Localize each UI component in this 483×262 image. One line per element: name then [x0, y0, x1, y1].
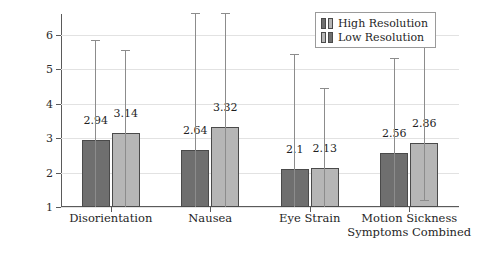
- gridline: [61, 207, 459, 208]
- error-bar: [195, 14, 196, 207]
- y-tick-label: 3: [46, 132, 53, 145]
- legend-item-low-resolution[interactable]: Low Resolution: [321, 30, 428, 44]
- y-tick-label: 6: [46, 28, 53, 41]
- error-bar: [324, 89, 325, 207]
- legend-swatch-low-resolution: [321, 32, 333, 43]
- y-tick: 1: [61, 207, 459, 208]
- error-bar: [394, 59, 395, 207]
- error-bar-cap-top: [320, 88, 329, 89]
- bar-chart: Mean of All Symptoms Combined 123456 2.9…: [0, 0, 483, 262]
- x-axis-group-label: Nausea: [188, 211, 232, 225]
- legend-swatch-high-resolution: [321, 18, 333, 29]
- bar-group: 2.943.14Disorientation: [61, 14, 161, 207]
- error-bar-cap-top: [290, 54, 299, 55]
- x-axis-group-label: Eye Strain: [279, 211, 340, 225]
- error-bar-cap-top: [121, 50, 130, 51]
- y-tick-mark: [56, 207, 61, 208]
- legend-item-high-resolution[interactable]: High Resolution: [321, 16, 428, 30]
- y-tick-label: 1: [46, 201, 53, 214]
- error-bar-cap-top: [390, 58, 399, 59]
- y-tick-label: 4: [46, 97, 53, 110]
- error-bar: [294, 55, 295, 207]
- y-tick-label: 5: [46, 63, 53, 76]
- legend-label-high-resolution: High Resolution: [338, 17, 428, 30]
- error-bar-cap-top: [191, 13, 200, 14]
- y-tick-label: 2: [46, 166, 53, 179]
- bar-group: 2.643.32Nausea: [161, 14, 261, 207]
- error-bar-cap-bottom: [420, 200, 429, 201]
- x-axis-group-label: Motion SicknessSymptoms Combined: [347, 211, 471, 239]
- x-axis-group-label: Disorientation: [69, 211, 152, 225]
- error-bar: [95, 41, 96, 207]
- legend-label-low-resolution: Low Resolution: [338, 31, 424, 44]
- error-bar: [225, 14, 226, 207]
- error-bar-cap-top: [91, 40, 100, 41]
- error-bar-cap-top: [221, 13, 230, 14]
- legend: High Resolution Low Resolution: [315, 12, 436, 48]
- error-bar: [125, 51, 126, 207]
- error-bar: [424, 44, 425, 201]
